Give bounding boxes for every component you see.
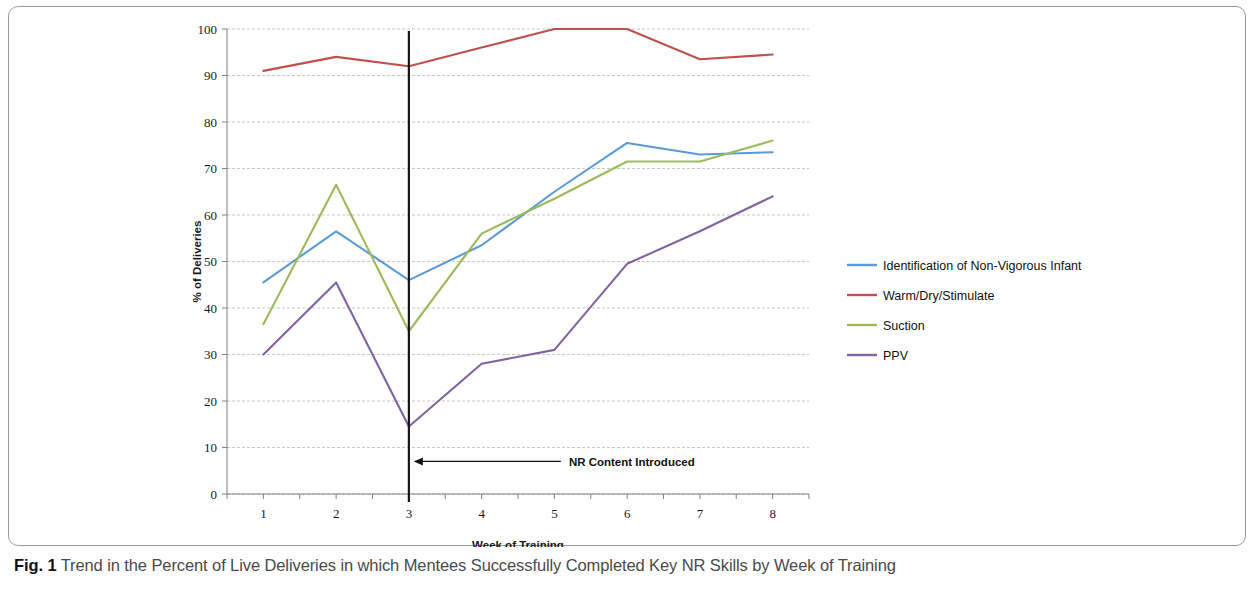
chart-series (263, 29, 772, 427)
y-tick-label: 90 (204, 68, 217, 83)
annotation-label: NR Content Introduced (569, 456, 695, 468)
figure-caption: Fig. 1 Trend in the Percent of Live Deli… (14, 556, 1244, 575)
legend-label-1: Identification of Non-Vigorous Infant (883, 259, 1082, 273)
y-tick-label: 30 (204, 347, 217, 362)
figure-container: 0102030405060708090100 12345678 NR Conte… (0, 0, 1256, 599)
chart-gridlines (227, 29, 809, 494)
y-tick-label: 80 (204, 115, 217, 130)
x-tick-label: 7 (697, 506, 704, 521)
y-tick-label: 100 (198, 22, 218, 37)
x-axis-title: Week of Training (472, 539, 564, 547)
line-chart: 0102030405060708090100 12345678 NR Conte… (9, 7, 1247, 547)
x-tick-label: 1 (260, 506, 267, 521)
y-tick-label: 10 (204, 440, 217, 455)
figure-border: 0102030405060708090100 12345678 NR Conte… (8, 6, 1246, 546)
legend-label-3: Suction (883, 319, 925, 333)
annotation-arrow-head (414, 457, 423, 465)
caption-text: Trend in the Percent of Live Deliveries … (61, 556, 896, 574)
y-tick-label: 20 (204, 394, 217, 409)
series-line-warm-dry-stimulate (263, 29, 772, 71)
series-line-suction (263, 141, 772, 332)
series-line-ppv (263, 196, 772, 426)
y-tick-label: 70 (204, 161, 217, 176)
legend-label-2: Warm/Dry/Stimulate (883, 289, 994, 303)
y-tick-label: 60 (204, 208, 217, 223)
chart-legend: Identification of Non-Vigorous InfantWar… (847, 259, 1082, 363)
y-tick-label: 50 (204, 254, 217, 269)
legend-label-4: PPV (883, 349, 909, 363)
y-axis-title: % of Deliveries (191, 221, 203, 303)
chart-xticks: 12345678 (227, 494, 809, 521)
x-tick-label: 6 (624, 506, 631, 521)
x-tick-label: 2 (333, 506, 340, 521)
chart-annotation: NR Content Introduced (409, 31, 695, 502)
y-tick-label: 0 (211, 487, 218, 502)
x-tick-label: 3 (406, 506, 413, 521)
x-tick-label: 8 (769, 506, 776, 521)
x-tick-label: 4 (478, 506, 485, 521)
y-tick-label: 40 (204, 301, 217, 316)
x-tick-label: 5 (551, 506, 558, 521)
caption-label: Fig. 1 (14, 556, 57, 574)
